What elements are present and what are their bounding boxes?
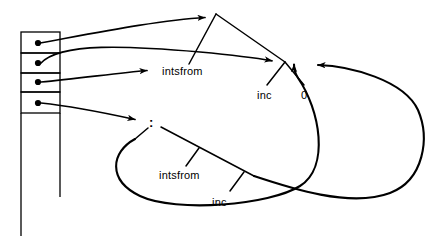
graph-reduction-diagram: intsfrom inc 0 : intsfrom inc (0, 0, 434, 244)
outer-back-loop-to-apply-vertex (254, 65, 424, 198)
edge-apex-to-intsfrom-stem (189, 14, 216, 64)
label-intsfrom-upper: intsfrom (162, 65, 203, 77)
cons-node-label: : (149, 116, 154, 129)
edge-vertex-to-inc (267, 62, 285, 85)
inner-back-loop-to-apply-vertex (116, 65, 319, 206)
label-zero: 0 (301, 89, 307, 101)
arrow-cell3-to-cons (41, 103, 135, 120)
arrow-cell1-to-apply-vertex (41, 47, 273, 63)
arrow-cell0-to-apex (40, 18, 205, 44)
label-intsfrom-lower: intsfrom (159, 169, 200, 181)
arrow-cell2-to-intsfrom (41, 71, 147, 83)
label-inc-upper: inc (257, 89, 272, 101)
edge-spine-to-inc-lower (230, 172, 244, 191)
edge-spine-to-intsfrom-lower (186, 148, 199, 166)
edge-cons-left-stem (135, 128, 148, 139)
label-inc-lower: inc (212, 196, 227, 208)
